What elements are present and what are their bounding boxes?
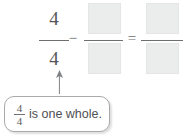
left-fraction-bar <box>39 40 69 41</box>
middle-numerator-blank[interactable] <box>88 3 121 34</box>
callout-numerator: 4 <box>13 103 26 114</box>
middle-fraction-numerator <box>84 2 124 34</box>
middle-fraction-bar <box>84 40 123 41</box>
arrow-up-icon <box>54 70 65 94</box>
left-numerator-value: 4 <box>49 9 59 28</box>
right-denominator-blank[interactable] <box>146 43 179 74</box>
left-denominator-value: 4 <box>49 49 59 68</box>
right-fraction-bar <box>141 40 183 41</box>
callout-fraction: 4 4 <box>13 100 26 128</box>
right-fraction-numerator <box>141 2 183 34</box>
middle-fraction-denominator <box>84 42 124 74</box>
middle-denominator-blank[interactable] <box>88 43 121 74</box>
equation-row: 4 4 − = <box>0 0 184 78</box>
callout-denominator: 4 <box>13 116 26 127</box>
right-numerator-blank[interactable] <box>146 3 179 34</box>
callout-box: 4 4 is one whole. <box>4 96 110 132</box>
callout-text: is one whole. <box>29 108 102 121</box>
left-fraction-numerator: 4 <box>34 2 74 34</box>
middle-fraction <box>84 2 124 74</box>
subtraction-operator: − <box>66 31 80 45</box>
right-fraction-denominator <box>141 42 183 74</box>
right-fraction <box>141 2 183 74</box>
worksheet-problem: 4 4 − = <box>0 0 184 138</box>
equals-operator: = <box>125 31 139 45</box>
